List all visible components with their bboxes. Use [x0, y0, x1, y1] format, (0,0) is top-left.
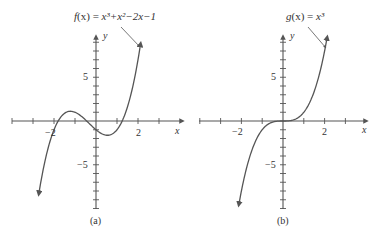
panel-a-function-label: f(x) = x³+x²−2x−1	[74, 10, 156, 23]
panel-a-tick-label-minus5: −5	[77, 159, 88, 170]
panel-b-func-var: (x)	[292, 10, 305, 23]
panel-b-function-label: g(x) = x³	[286, 10, 325, 23]
panel-b-tick-label-5: 5	[271, 71, 276, 82]
panel-b-y-label: y	[289, 30, 295, 41]
panel-a-leader-arrow	[121, 27, 140, 47]
panel-b-leader-arrow	[308, 27, 326, 48]
panel-b-tick-label-minus2: −2	[232, 126, 243, 137]
panel-b-tick-label-minus5: −5	[265, 159, 276, 170]
panel-b-func-rhs: x³	[315, 10, 325, 22]
panel-a-func-var: (x)	[77, 10, 90, 23]
panel-a-func-eq: =	[90, 10, 102, 22]
panel-a-x-label: x	[174, 125, 180, 136]
panel-b-func-eq: =	[304, 10, 316, 22]
figure: x y −2 2 5 −5 f(x) = x³+x²−2x−1 (a) x y …	[0, 0, 383, 237]
panel-a-chart: x y −2 2 5 −5 f(x) = x³+x²−2x−1 (a)	[12, 10, 182, 227]
panel-a-y-label: y	[102, 30, 108, 41]
panel-b-chart: x y −2 2 5 −5 g(x) = x³ (b)	[199, 10, 367, 227]
panel-b-x-label: x	[361, 124, 367, 135]
panel-a-func-rhs: x³+x²−2x−1	[101, 10, 157, 22]
panel-a-tick-label-minus2: −2	[45, 127, 56, 138]
panel-b-tick-label-2: 2	[322, 126, 327, 137]
panel-a-caption: (a)	[90, 215, 101, 227]
panel-a-tick-label-2: 2	[136, 127, 141, 138]
panel-a-tick-label-5: 5	[83, 71, 88, 82]
panel-b-caption: (b)	[277, 215, 289, 227]
figure-svg: x y −2 2 5 −5 f(x) = x³+x²−2x−1 (a) x y …	[0, 0, 383, 237]
